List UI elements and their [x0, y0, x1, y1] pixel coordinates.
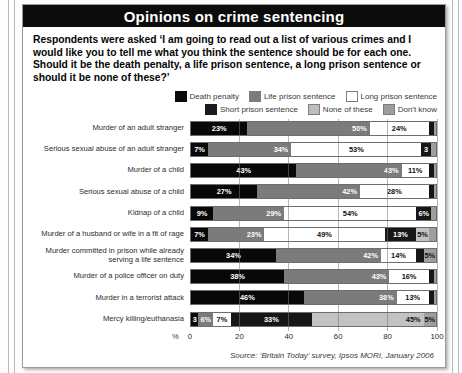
- bar-segment-long: 53%: [291, 143, 421, 156]
- bar-segment-death: 7%: [191, 228, 208, 241]
- axis-tick-label: 100: [430, 332, 443, 341]
- stacked-bar: 27%42%28%: [190, 184, 437, 199]
- legend-item-life-prison-sentence: Life prison sentence: [249, 91, 336, 102]
- bar-row-label: Serious sexual abuse of an adult strange…: [29, 145, 190, 154]
- bar-segment-death: 3: [191, 313, 198, 326]
- bar-rows: Murder of an adult stranger23%50%24%Seri…: [29, 119, 437, 331]
- bar-segment-long: 24%: [370, 122, 429, 135]
- stacked-bar: 36%7%33%45%5%: [190, 312, 437, 327]
- bar-segment-life: 6%: [198, 313, 213, 326]
- legend-swatch-long-prison-sentence: [346, 91, 358, 102]
- page-rule-right-outer: [458, 0, 459, 373]
- bar-segment-dk: [431, 207, 436, 220]
- bar-segment-dk: [434, 270, 436, 283]
- bar-segment-life: 42%: [257, 185, 360, 198]
- table-row: Serious sexual abuse of an adult strange…: [29, 141, 437, 159]
- bar-segment-dk: 5%: [424, 313, 436, 326]
- bar-segment-long: 14%: [381, 249, 416, 262]
- bar-segment-dk: [431, 143, 436, 156]
- legend-item-none-of-these: None of these: [308, 104, 373, 115]
- bar-segment-none: 5%: [416, 228, 428, 241]
- table-row: Murder of an adult stranger23%50%24%: [29, 119, 437, 137]
- legend-label-death-penalty: Death penalty: [190, 92, 239, 101]
- bar-segment-long: 7%: [213, 313, 230, 326]
- bar-row-label: Murder committed in prison while already…: [29, 247, 190, 264]
- stacked-bar: 34%42%14%5%: [190, 248, 437, 263]
- legend-label-none-of-these: None of these: [323, 105, 373, 114]
- table-row: Murder in a terrorist attack46%38%13%: [29, 289, 437, 307]
- bar-segment-dk: [434, 122, 436, 135]
- chart-card: Opinions on crime sentencing Respondents…: [22, 4, 446, 368]
- bar-segment-death: 43%: [191, 164, 296, 177]
- table-row: Kidnap of a child9%29%54%6%: [29, 204, 437, 222]
- bar-segment-dk: [434, 185, 436, 198]
- table-row: Murder committed in prison while already…: [29, 247, 437, 265]
- stacked-bar: 38%43%16%: [190, 269, 437, 284]
- table-row: Murder of a husband or wife in a fit of …: [29, 225, 437, 243]
- bar-segment-death: 23%: [191, 122, 247, 135]
- question-text: Respondents were asked ‘I am going to re…: [23, 27, 445, 86]
- legend-swatch-life-prison-sentence: [249, 91, 261, 102]
- page-rule-left-inner: [14, 0, 15, 373]
- axis-tick-label: 40: [284, 332, 293, 341]
- legend-item-short-prison-sentence: Short prison sentence: [205, 104, 298, 115]
- bar-segment-dk: [434, 291, 436, 304]
- bar-segment-none: 45%: [312, 313, 423, 326]
- legend-label-long-prison-sentence: Long prison sentence: [361, 92, 438, 101]
- bar-segment-short: 3: [421, 143, 431, 156]
- stacked-bar: 7%23%49%13%5%: [190, 227, 437, 242]
- legend-item-dont-know: Don't know: [383, 104, 437, 115]
- axis-unit-label: %: [172, 332, 179, 341]
- stacked-bar: 46%38%13%: [190, 290, 437, 305]
- bar-segment-long: 16%: [389, 270, 428, 283]
- bar-segment-life: 23%: [208, 228, 264, 241]
- stacked-bar: 23%50%24%: [190, 121, 437, 136]
- bar-segment-death: 34%: [191, 249, 276, 262]
- bar-row-label: Murder of a child: [29, 166, 190, 175]
- bar-segment-death: 9%: [191, 207, 213, 220]
- page-rule-left-outer: [8, 0, 9, 373]
- bar-segment-short: 33%: [231, 313, 313, 326]
- stacked-bar: 7%34%53%3: [190, 142, 437, 157]
- bar-row-label: Murder of a police officer on duty: [29, 272, 190, 281]
- bar-row-label: Murder in a terrorist attack: [29, 294, 190, 303]
- bar-segment-dk: [429, 228, 436, 241]
- bar-row-label: Kidnap of a child: [29, 209, 190, 218]
- bar-segment-life: 38%: [304, 291, 397, 304]
- bar-segment-death: 7%: [191, 143, 208, 156]
- bar-row-label: Mercy killing/euthanasia: [29, 315, 190, 324]
- table-row: Mercy killing/euthanasia36%7%33%45%5%: [29, 310, 437, 328]
- bar-segment-long: 54%: [284, 207, 416, 220]
- page-title: Opinions on crime sentencing: [124, 8, 345, 25]
- legend-item-long-prison-sentence: Long prison sentence: [346, 91, 438, 102]
- bar-segment-dk: [434, 164, 436, 177]
- bar-segment-life: 29%: [213, 207, 284, 220]
- legend-item-death-penalty: Death penalty: [175, 91, 239, 102]
- legend-row-2: Short prison sentence None of these Don'…: [199, 104, 437, 115]
- axis-tick-label: 20: [235, 332, 244, 341]
- stacked-bar: 43%43%11%: [190, 163, 437, 178]
- axis-tick-label: 60: [334, 332, 343, 341]
- bar-row-label: Murder of an adult stranger: [29, 124, 190, 133]
- chart-plot-area: Murder of an adult stranger23%50%24%Seri…: [29, 119, 437, 331]
- bar-segment-life: 34%: [208, 143, 291, 156]
- bar-segment-long: 49%: [264, 228, 384, 241]
- legend-swatch-death-penalty: [175, 91, 187, 102]
- bar-row-label: Murder of a husband or wife in a fit of …: [29, 230, 190, 239]
- chart-x-axis: % 020406080100: [29, 331, 437, 345]
- legend-label-short-prison-sentence: Short prison sentence: [220, 105, 298, 114]
- bar-segment-death: 38%: [191, 270, 284, 283]
- bar-segment-short: [416, 249, 424, 262]
- bar-segment-death: 27%: [191, 185, 257, 198]
- bar-segment-short: 13%: [385, 228, 417, 241]
- bar-segment-dk: 5%: [424, 249, 437, 262]
- bar-segment-life: 43%: [296, 164, 401, 177]
- bar-segment-life: 50%: [247, 122, 370, 135]
- axis-tick-label: 80: [383, 332, 392, 341]
- chart-source: Source: ‘Britain Today’ survey, Ipsos MO…: [23, 351, 445, 360]
- chart-legend: Death penalty Life prison sentence Long …: [23, 91, 437, 115]
- table-row: Murder of a police officer on duty38%43%…: [29, 268, 437, 286]
- legend-label-life-prison-sentence: Life prison sentence: [264, 92, 336, 101]
- legend-label-dont-know: Don't know: [398, 105, 437, 114]
- page-rule-right-inner: [452, 0, 453, 373]
